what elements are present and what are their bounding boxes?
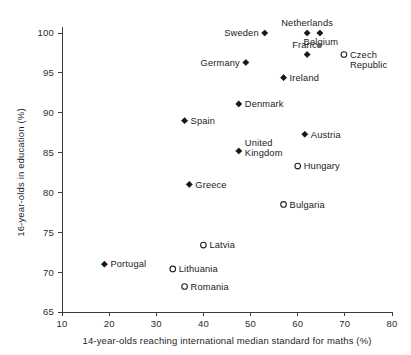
x-tick-label: 20	[104, 318, 115, 329]
point-label: Germany	[201, 58, 240, 68]
data-point: Denmark	[236, 99, 284, 109]
x-tick-label: 40	[198, 318, 209, 329]
y-tick-label: 80	[43, 187, 54, 198]
point-label: United	[245, 138, 273, 148]
point-label: Greece	[195, 180, 226, 190]
marker-filled-diamond	[280, 75, 286, 81]
data-point: Sweden	[224, 28, 268, 38]
point-label: Denmark	[245, 99, 284, 109]
y-tick-label: 85	[43, 147, 54, 158]
marker-filled-diamond	[302, 131, 308, 137]
marker-open-circle	[341, 52, 347, 58]
data-point: Netherlands	[281, 18, 333, 36]
data-point: Ireland	[280, 73, 319, 83]
y-tick-label: 75	[43, 227, 54, 238]
point-label: Hungary	[304, 161, 340, 171]
data-point: Austria	[302, 130, 342, 140]
point-label: Sweden	[224, 28, 259, 38]
point-label: Lithuania	[179, 264, 219, 274]
data-point: Portugal	[101, 259, 146, 269]
point-label: Spain	[191, 116, 216, 126]
x-tick-label: 30	[151, 318, 162, 329]
x-tick-label: 10	[57, 318, 68, 329]
marker-filled-diamond	[304, 30, 310, 36]
x-tick-label: 70	[339, 318, 350, 329]
point-label: Romania	[191, 282, 230, 292]
marker-filled-diamond	[317, 30, 323, 36]
y-tick-label: 90	[43, 107, 54, 118]
point-label: Netherlands	[281, 18, 333, 28]
point-label: Austria	[311, 130, 342, 140]
y-axis-title: 16-year-olds in education (%)	[15, 108, 26, 236]
x-tick-label: 60	[292, 318, 303, 329]
point-label: Republic	[350, 60, 388, 70]
axis-titles: 14-year-olds reaching international medi…	[15, 108, 372, 346]
point-label: Bulgaria	[290, 200, 326, 210]
data-point: France	[292, 40, 322, 58]
marker-filled-diamond	[181, 118, 187, 124]
marker-filled-diamond	[186, 181, 192, 187]
data-point: Spain	[181, 116, 215, 126]
data-point: Lithuania	[170, 264, 219, 274]
data-point: UnitedKingdom	[236, 138, 283, 158]
point-label: Latvia	[209, 240, 235, 250]
y-tick-label: 65	[43, 306, 54, 317]
x-axis-title: 14-year-olds reaching international medi…	[82, 335, 371, 346]
x-tick-label: 50	[245, 318, 256, 329]
data-point: CzechRepublic	[341, 50, 387, 70]
marker-filled-diamond	[236, 148, 242, 154]
data-point: Greece	[186, 180, 226, 190]
marker-open-circle	[295, 163, 301, 169]
data-point: Hungary	[295, 161, 340, 171]
x-tick-label: 80	[387, 318, 398, 329]
point-label: Portugal	[110, 259, 146, 269]
point-label: France	[292, 40, 322, 50]
marker-open-circle	[182, 284, 188, 290]
data-point: Romania	[182, 282, 230, 292]
point-label: Czech	[350, 50, 377, 60]
y-tick-label: 70	[43, 267, 54, 278]
marker-filled-diamond	[304, 51, 310, 57]
marker-filled-diamond	[236, 101, 242, 107]
marker-open-circle	[281, 202, 287, 208]
data-points: SwedenNetherlandsBelgiumFranceCzechRepub…	[101, 18, 387, 292]
point-label: Kingdom	[245, 148, 283, 158]
y-tick-label: 100	[38, 27, 54, 38]
marker-open-circle	[201, 242, 207, 248]
data-point: Bulgaria	[281, 200, 326, 210]
y-tick-label: 95	[43, 67, 54, 78]
marker-filled-diamond	[262, 30, 268, 36]
marker-filled-diamond	[101, 261, 107, 267]
marker-open-circle	[170, 266, 176, 272]
data-point: Latvia	[201, 240, 236, 250]
point-label: Ireland	[290, 73, 319, 83]
chart-canvas: 657075808590951001020304050607080 Sweden…	[0, 0, 411, 355]
data-point: Germany	[201, 58, 249, 68]
scatter-chart: 657075808590951001020304050607080 Sweden…	[0, 0, 411, 355]
marker-filled-diamond	[243, 59, 249, 65]
